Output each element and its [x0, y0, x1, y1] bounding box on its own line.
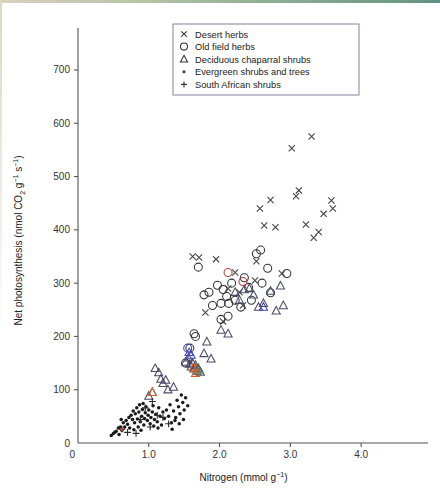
data-point-dot: [157, 406, 161, 410]
data-point-x: [293, 193, 299, 199]
data-point-x: [261, 222, 267, 228]
data-point-dot: [149, 416, 153, 420]
legend-item-label: Deciduous chaparral shrubs: [195, 55, 311, 65]
data-point-triangle: [217, 326, 225, 334]
series-desert-herbs: [190, 133, 336, 324]
y-tick-label: 600: [53, 118, 70, 129]
data-point-dot: [123, 425, 127, 429]
data-point-triangle: [148, 388, 156, 396]
scatter-plot-figure: 010020030040050060070001.02.03.04.0Nitro…: [0, 0, 440, 489]
data-point-circle: [247, 296, 255, 304]
data-point-dot: [135, 406, 139, 410]
data-point-circle: [200, 291, 208, 299]
data-point-triangle: [272, 306, 280, 314]
data-point-triangle: [279, 301, 287, 309]
data-point-x: [272, 224, 278, 230]
data-point-dot: [147, 408, 151, 412]
data-point-dot: [156, 420, 160, 424]
data-point-dot: [113, 431, 117, 435]
data-point-circle: [264, 264, 272, 272]
plot-canvas: 010020030040050060070001.02.03.04.0Nitro…: [0, 0, 440, 489]
data-point-x: [308, 133, 314, 139]
data-point-dot: [134, 412, 138, 416]
data-point-x: [232, 269, 238, 275]
data-point-dot: [174, 416, 178, 420]
data-point-dot: [181, 401, 185, 405]
legend-item-label: Old field herbs: [195, 42, 255, 52]
data-point-triangle: [207, 354, 215, 362]
data-point-dot: [138, 403, 142, 407]
data-point-dot: [141, 402, 145, 406]
data-point-dot: [175, 399, 179, 403]
data-point-circle: [283, 270, 291, 278]
data-point-dot: [129, 414, 133, 418]
data-point-dot: [177, 405, 181, 409]
data-point-dot: [139, 428, 143, 432]
data-point-circle: [258, 279, 266, 287]
data-point-dot: [122, 421, 126, 425]
data-point-dot: [110, 434, 114, 438]
data-point-circle: [192, 332, 200, 340]
data-point-dot: [184, 396, 188, 400]
data-point-triangle: [200, 349, 208, 357]
data-series-group: [110, 133, 336, 437]
data-point-dot: [186, 404, 190, 408]
data-point-dot: [120, 427, 124, 431]
data-point-dot: [133, 421, 137, 425]
x-tick-label: 0: [69, 449, 75, 460]
series-old-field-herbs: [182, 246, 291, 367]
y-tick-label: 400: [53, 224, 70, 235]
y-axis-title: Net photosynthesis (nmol CO2 g−1 s−1): [12, 156, 26, 326]
data-point-circle: [205, 288, 213, 296]
x-tick-label: 4.0: [354, 449, 368, 460]
series-deciduous-chaparral-shrubs: [145, 281, 288, 399]
data-point-dot: [124, 419, 128, 423]
x-tick-label: 3.0: [283, 449, 297, 460]
legend-item-label: Evergreen shrubs and trees: [195, 67, 310, 77]
data-point-dot: [161, 410, 165, 414]
data-point-circle: [194, 263, 202, 271]
data-point-x: [253, 258, 259, 264]
data-point-dot: [180, 393, 184, 397]
data-point-dot: [173, 419, 177, 423]
data-point-x: [296, 187, 302, 193]
y-tick-label: 100: [53, 384, 70, 395]
data-point-circle: [224, 312, 232, 320]
data-point-dot: [178, 412, 182, 416]
x-tick-label: 2.0: [213, 449, 227, 460]
data-point-triangle: [170, 383, 178, 391]
data-point-x: [303, 221, 309, 227]
y-tick-label: 500: [53, 171, 70, 182]
data-point-dot: [128, 426, 132, 430]
data-point-triangle: [203, 337, 211, 345]
data-point-dot: [143, 411, 147, 415]
data-point-dot: [167, 415, 171, 419]
data-point-dot: [168, 403, 172, 407]
data-point-dot: [170, 427, 174, 431]
data-point-x: [190, 253, 196, 259]
data-point-dot: [182, 70, 185, 73]
data-point-x: [202, 309, 208, 315]
data-point-dot: [177, 422, 181, 426]
data-point-triangle: [148, 388, 156, 396]
data-point-circle: [228, 279, 236, 287]
data-point-dot: [119, 418, 123, 422]
data-point-plus: [147, 424, 154, 431]
data-point-dot: [132, 428, 136, 432]
data-point-dot: [182, 418, 186, 422]
y-tick-label: 0: [64, 438, 70, 449]
data-point-x: [252, 277, 258, 283]
data-point-x: [257, 205, 263, 211]
data-point-dot: [153, 418, 157, 422]
y-tick-label: 700: [53, 64, 70, 75]
data-point-dot: [126, 423, 130, 427]
data-point-dot: [182, 408, 186, 412]
x-tick-label: 1.0: [142, 449, 156, 460]
data-point-dot: [131, 418, 135, 422]
data-point-plus: [124, 429, 131, 436]
data-point-x: [289, 145, 295, 151]
data-point-dot: [117, 433, 121, 437]
data-point-dot: [146, 419, 150, 423]
data-point-circle: [217, 299, 225, 307]
data-point-x: [321, 211, 327, 217]
